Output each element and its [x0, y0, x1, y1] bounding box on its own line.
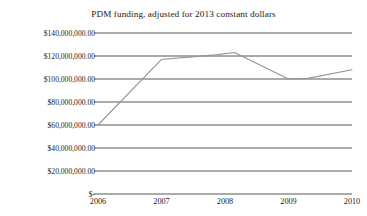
data-line-group [98, 53, 352, 125]
x-axis-tick-label: 2009 [267, 197, 311, 206]
x-axis-tick-label: 2010 [330, 197, 367, 206]
gridlines-group [94, 33, 352, 194]
y-axis-tick-label: $20,000,000.00 [0, 167, 95, 176]
x-axis-tick-label: 2007 [140, 197, 184, 206]
y-axis-tick-label: $140,000,000.00 [0, 29, 95, 38]
y-axis-tick-label: $120,000,000.00 [0, 52, 95, 61]
data-line-pdm-funding [98, 53, 352, 125]
y-axis-tick-label: $80,000,000.00 [0, 98, 95, 107]
y-axis-tick-label: $100,000,000.00 [0, 75, 95, 84]
chart-container: PDM funding, adjusted for 2013 constant … [0, 0, 367, 216]
y-axis-tick-label: $40,000,000.00 [0, 144, 95, 153]
y-axis-tick-label: $60,000,000.00 [0, 121, 95, 130]
x-axis-tick-label: 2008 [203, 197, 247, 206]
x-axis-tick-label: 2006 [76, 197, 120, 206]
